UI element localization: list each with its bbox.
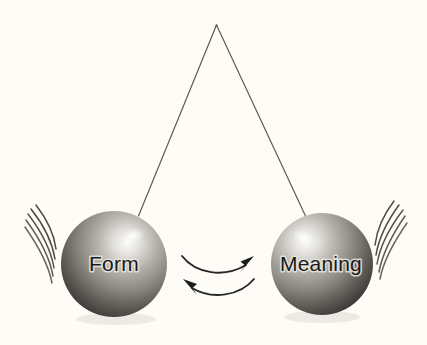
ball-form-label: Form — [89, 252, 139, 275]
ball-meaning-label: Meaning — [280, 252, 362, 275]
pendulum-diagram: Form Form Meaning Meaning — [0, 0, 427, 345]
pivot-point-icon — [215, 24, 217, 26]
diagram-canvas: Form Form Meaning Meaning — [0, 0, 427, 345]
